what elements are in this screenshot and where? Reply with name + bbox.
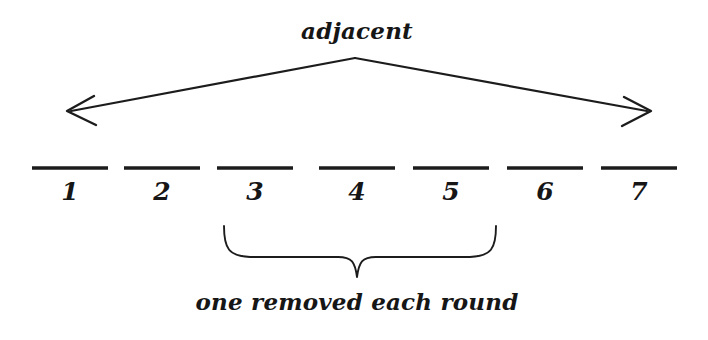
- adjacent-span-arrow: [67, 58, 651, 126]
- slot-number-7: 7: [630, 177, 647, 206]
- adjacent-label: adjacent: [301, 17, 413, 44]
- slot-number-4: 4: [348, 177, 365, 206]
- arrow-right-shaft: [355, 58, 647, 111]
- slot-number-2: 2: [153, 177, 170, 206]
- one-removed-each-round-label: one removed each round: [196, 288, 519, 315]
- curly-brace-icon: [224, 226, 496, 277]
- slot-number-1: 1: [61, 177, 78, 206]
- diagram-canvas: adjacent one removed each round 1234567: [0, 0, 708, 340]
- slot-number-6: 6: [536, 177, 553, 206]
- removed-group-brace: [224, 226, 496, 277]
- slot-number-5: 5: [442, 177, 459, 206]
- slot-number-3: 3: [246, 177, 263, 206]
- arrow-left-shaft: [71, 58, 355, 111]
